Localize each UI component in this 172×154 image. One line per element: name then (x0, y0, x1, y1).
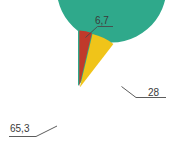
pie-label-yellow: 28 (148, 87, 159, 98)
leader-line-yellow (122, 87, 167, 98)
pie-label-green: 65,3 (10, 123, 29, 134)
pie-chart: 2008 6,7 28 65,3 (0, 0, 172, 154)
pie-label-red: 6,7 (95, 15, 109, 26)
